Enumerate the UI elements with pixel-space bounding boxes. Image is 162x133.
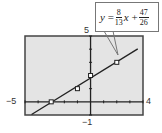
eq-lhs: y: [100, 11, 105, 23]
y-min-label: −1: [82, 118, 92, 127]
data-point: [115, 60, 119, 64]
eq-var: x: [124, 11, 129, 23]
intercept-fraction: 4726: [139, 8, 149, 27]
eq-plus: +: [132, 11, 138, 23]
plot-frame: [25, 36, 143, 115]
data-point: [75, 87, 79, 91]
eq-equals: =: [108, 11, 114, 23]
x-max-label: 4: [146, 97, 151, 106]
x-min-label: −5: [6, 97, 16, 106]
y-max-label: 5: [84, 26, 89, 35]
data-point: [89, 74, 93, 78]
data-point: [49, 100, 53, 104]
regression-equation-callout: y = 813x + 4726: [95, 2, 159, 32]
slope-fraction: 813: [115, 8, 123, 27]
